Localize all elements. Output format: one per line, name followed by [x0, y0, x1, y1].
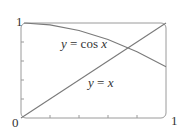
chart-canvas	[0, 0, 186, 136]
origin-label: 0	[12, 116, 19, 129]
y-max-label: 1	[16, 15, 23, 28]
cos-annotation-x: x	[101, 36, 107, 51]
cos-annotation-eq: = cos	[67, 36, 101, 51]
identity-annotation: y = x	[88, 76, 113, 89]
identity-annotation-eq: =	[94, 75, 108, 90]
x-max-label: 1	[171, 114, 178, 127]
cos-annotation: y = cos x	[61, 37, 107, 50]
identity-annotation-x: x	[108, 75, 114, 90]
